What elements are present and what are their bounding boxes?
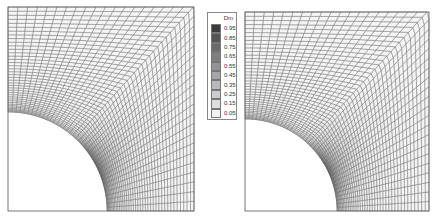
legend-label: 0.65 xyxy=(224,52,236,61)
legend-row: 0.35 xyxy=(211,80,236,89)
legend-row: 0.15 xyxy=(211,99,236,108)
mesh-panel-left xyxy=(8,7,194,211)
legend-label: 0.35 xyxy=(224,81,236,90)
legend-label: 0.55 xyxy=(224,62,236,71)
legend-row: 0.45 xyxy=(211,71,236,80)
legend-rows: 0.95 0.85 0.75 0.65 0.55 0.45 0.35 0.25 … xyxy=(211,24,236,118)
legend-swatch xyxy=(211,33,221,42)
mesh-panel-right xyxy=(245,12,429,211)
legend-swatch xyxy=(211,99,221,108)
legend-swatch xyxy=(211,80,221,89)
legend-swatch xyxy=(211,90,221,99)
legend-label: 0.25 xyxy=(224,90,236,99)
legend-title: Dm xyxy=(208,15,233,21)
legend-swatch xyxy=(211,24,221,33)
legend-row: 0.75 xyxy=(211,43,236,52)
legend-label: 0.15 xyxy=(224,99,236,108)
legend-swatch xyxy=(211,71,221,80)
legend-label: 0.45 xyxy=(224,71,236,80)
legend-row: 0.25 xyxy=(211,90,236,99)
legend-label: 0.95 xyxy=(224,24,236,33)
legend-label: 0.75 xyxy=(224,43,236,52)
legend-swatch xyxy=(211,62,221,71)
legend-row: 0.65 xyxy=(211,52,236,61)
legend-label: 0.05 xyxy=(224,109,236,118)
damage-legend: Dm 0.95 0.85 0.75 0.65 0.55 0.45 0.35 0.… xyxy=(207,12,237,120)
legend-row: 0.95 xyxy=(211,24,236,33)
legend-swatch xyxy=(211,52,221,61)
legend-swatch xyxy=(211,43,221,52)
legend-swatch xyxy=(211,109,221,118)
legend-label: 0.85 xyxy=(224,34,236,43)
legend-row: 0.55 xyxy=(211,62,236,71)
legend-row: 0.85 xyxy=(211,33,236,42)
legend-row: 0.05 xyxy=(211,109,236,118)
